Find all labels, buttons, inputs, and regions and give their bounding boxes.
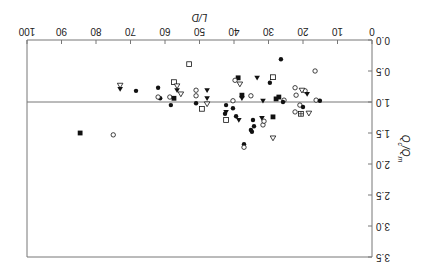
point-filled-triangle — [204, 96, 210, 101]
y-axis-title: Qc/Qm — [398, 135, 412, 163]
point-filled-triangle — [260, 99, 266, 104]
point-open-triangle — [237, 82, 243, 87]
point-filled-circle — [223, 112, 227, 116]
point-open-circle — [111, 133, 115, 137]
x-tick-label: 70 — [125, 26, 137, 37]
x-tick-label: 30 — [263, 26, 275, 37]
x-tick-label: 60 — [159, 26, 171, 37]
y-tick-label: 1.0 — [376, 97, 390, 108]
point-filled-circle — [279, 57, 283, 61]
scatter-chart: 01020304050607080901000.00.51.01.52.02.5… — [0, 0, 426, 275]
point-open-circle — [262, 119, 266, 123]
point-open-circle — [293, 110, 297, 114]
x-tick-label: 0 — [369, 26, 375, 37]
point-open-circle — [231, 99, 235, 103]
point-open-circle — [168, 95, 172, 99]
point-open-triangle — [204, 102, 210, 107]
point-filled-circle — [252, 124, 256, 128]
point-filled-circle — [249, 128, 253, 132]
point-filled-circle — [301, 105, 305, 109]
point-filled-circle — [156, 86, 160, 90]
point-filled-circle — [194, 101, 198, 105]
point-filled-square — [78, 131, 83, 136]
point-open-triangle — [306, 111, 312, 116]
point-filled-square — [271, 114, 276, 119]
point-filled-circle — [231, 106, 235, 110]
point-filled-triangle — [304, 92, 310, 97]
x-tick-label: 50 — [194, 26, 206, 37]
point-filled-triangle — [204, 88, 210, 93]
point-open-triangle — [174, 84, 180, 89]
point-filled-square — [172, 96, 177, 101]
point-filled-square — [274, 97, 279, 102]
point-open-circle — [293, 86, 297, 90]
x-axis-title: L/D — [192, 12, 208, 23]
point-filled-circle — [268, 81, 272, 85]
x-tick-label: 40 — [228, 26, 240, 37]
point-open-circle — [156, 95, 160, 99]
point-open-circle — [294, 93, 298, 97]
point-filled-circle — [234, 114, 238, 118]
point-filled-circle — [251, 118, 255, 122]
point-open-triangle — [270, 136, 276, 141]
data-points — [78, 57, 322, 149]
y-tick-label: 1.5 — [376, 128, 390, 139]
point-open-circle — [242, 145, 246, 149]
point-open-square — [224, 118, 229, 123]
y-tick-label: 2.5 — [376, 190, 390, 201]
point-filled-triangle — [254, 76, 260, 81]
point-filled-circle — [134, 89, 138, 93]
point-open-triangle — [178, 92, 184, 97]
x-tick-label: 10 — [332, 26, 344, 37]
point-filled-circle — [281, 100, 285, 104]
axes-group: 01020304050607080901000.00.51.01.52.02.5… — [18, 26, 390, 263]
y-tick-label: 0.5 — [376, 66, 390, 77]
y-tick-label: 2.0 — [376, 159, 390, 170]
chart-stage: 01020304050607080901000.00.51.01.52.02.5… — [0, 0, 426, 275]
x-tick-label: 80 — [90, 26, 102, 37]
point-filled-triangle — [239, 96, 245, 101]
x-tick-label: 90 — [56, 26, 68, 37]
point-open-circle — [314, 98, 318, 102]
point-filled-triangle — [117, 87, 123, 92]
point-open-circle — [194, 94, 198, 98]
point-open-circle — [249, 94, 253, 98]
y-tick-label: 3.5 — [376, 252, 390, 263]
point-filled-circle — [224, 103, 228, 107]
point-filled-circle — [318, 99, 322, 103]
point-open-square — [187, 62, 192, 67]
y-tick-label: 3.0 — [376, 221, 390, 232]
point-open-square — [271, 75, 276, 80]
point-filled-circle — [169, 103, 173, 107]
y-tick-label: 0.0 — [376, 35, 390, 46]
point-open-circle — [194, 88, 198, 92]
point-open-square — [200, 106, 205, 111]
x-tick-label: 100 — [18, 26, 35, 37]
x-tick-label: 20 — [297, 26, 309, 37]
point-open-circle — [313, 69, 317, 73]
point-filled-triangle — [236, 118, 242, 123]
